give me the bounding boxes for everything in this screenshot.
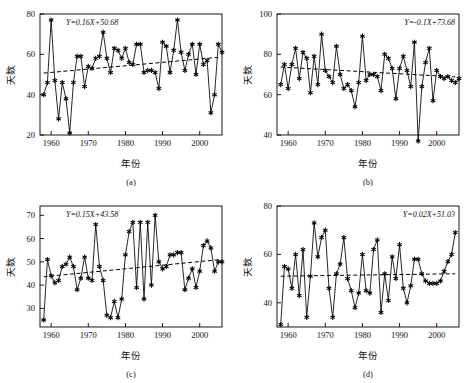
- panel-caption: (c): [126, 369, 136, 379]
- x-tick-label: 1960: [43, 138, 60, 148]
- x-tick-label: 1970: [80, 138, 97, 148]
- x-tick-label: 1970: [317, 138, 334, 148]
- x-tick-label: 1960: [43, 330, 60, 340]
- x-tick-label: 1970: [317, 330, 334, 340]
- chart-svg-d: 40608019601970198019902000Y=0.02X+51.03天…: [237, 192, 474, 383]
- plot-frame: [277, 14, 459, 135]
- panel-caption: (a): [126, 177, 136, 187]
- y-tick-label: 40: [27, 90, 36, 100]
- x-tick-label: 1980: [354, 330, 371, 340]
- y-tick-label: 60: [27, 49, 36, 59]
- x-tick-label: 1980: [117, 138, 134, 148]
- x-tick-label: 1980: [354, 138, 371, 148]
- equation-annotation: Y=-0.1X+73.68: [404, 18, 455, 27]
- chart-svg-c: 304050607019601970198019902000Y=0.15X+43…: [0, 192, 237, 383]
- chart-panel-b: 40608010019601970198019902000Y=-0.1X+73.…: [237, 0, 474, 192]
- plot-frame: [40, 14, 222, 135]
- y-axis-label: 天数: [5, 257, 16, 277]
- x-tick-label: 1990: [154, 330, 171, 340]
- x-tick-label: 1960: [280, 138, 297, 148]
- equation-annotation: Y=0.16X+50.68: [66, 18, 118, 27]
- plot-frame: [40, 206, 222, 327]
- panel-caption: (b): [363, 177, 373, 187]
- x-tick-label: 2000: [191, 330, 208, 340]
- chart-panel-a: 2040608019601970198019902000Y=0.16X+50.6…: [0, 0, 237, 192]
- y-tick-label: 70: [27, 210, 36, 220]
- x-tick-label: 1980: [117, 330, 134, 340]
- x-axis-label: 年份: [121, 350, 141, 361]
- data-markers: [278, 220, 457, 327]
- y-tick-label: 60: [264, 249, 273, 259]
- equation-annotation: Y=0.02X+51.03: [403, 210, 455, 219]
- data-markers: [41, 17, 224, 135]
- trend-line: [281, 274, 456, 276]
- y-tick-label: 80: [264, 49, 273, 59]
- y-tick-label: 80: [264, 201, 273, 211]
- y-tick-label: 100: [259, 9, 272, 19]
- chart-svg-a: 2040608019601970198019902000Y=0.16X+50.6…: [0, 0, 237, 192]
- panel-caption: (d): [363, 369, 373, 379]
- y-tick-label: 40: [27, 280, 36, 290]
- data-markers: [278, 32, 461, 144]
- y-axis-label: 天数: [242, 65, 253, 85]
- x-tick-label: 1990: [154, 138, 171, 148]
- chart-panel-c: 304050607019601970198019902000Y=0.15X+43…: [0, 192, 237, 383]
- data-series-line: [281, 34, 459, 141]
- y-tick-label: 60: [264, 90, 273, 100]
- y-tick-label: 80: [27, 9, 36, 19]
- x-tick-label: 1960: [280, 330, 297, 340]
- chart-svg-b: 40608010019601970198019902000Y=-0.1X+73.…: [237, 0, 474, 192]
- y-tick-label: 20: [27, 130, 36, 140]
- x-axis-label: 年份: [121, 158, 141, 169]
- y-axis-label: 天数: [5, 65, 16, 85]
- x-tick-label: 1990: [391, 330, 408, 340]
- y-axis-label: 天数: [242, 257, 253, 277]
- y-tick-label: 60: [27, 234, 36, 244]
- x-tick-label: 1970: [80, 330, 97, 340]
- y-tick-label: 30: [27, 303, 36, 313]
- chart-panel-d: 40608019601970198019902000Y=0.02X+51.03天…: [237, 192, 474, 383]
- equation-annotation: Y=0.15X+43.58: [66, 210, 118, 219]
- x-tick-label: 1990: [391, 138, 408, 148]
- x-axis-label: 年份: [358, 158, 378, 169]
- x-tick-label: 2000: [428, 330, 445, 340]
- y-tick-label: 40: [264, 130, 273, 140]
- figure-panel-grid: 2040608019601970198019902000Y=0.16X+50.6…: [0, 0, 474, 383]
- y-tick-label: 50: [27, 257, 36, 267]
- x-tick-label: 2000: [191, 138, 208, 148]
- data-series-line: [44, 20, 222, 133]
- y-tick-label: 40: [264, 298, 273, 308]
- x-axis-label: 年份: [358, 350, 378, 361]
- x-tick-label: 2000: [428, 138, 445, 148]
